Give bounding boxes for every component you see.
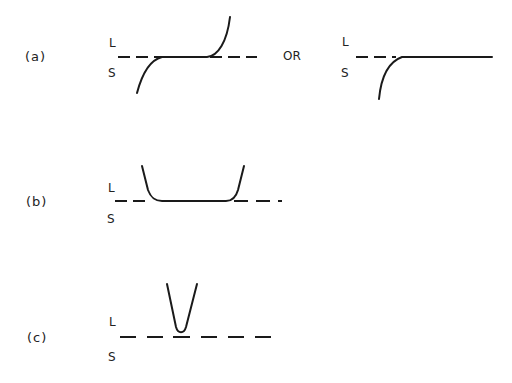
interface-curve-u [142,166,244,201]
phase-label-solid: S [108,351,116,364]
panel-a-variant-2 [356,57,492,99]
phase-label-liquid: L [109,316,116,329]
diagram-svg [0,0,512,383]
interface-curve [137,17,230,93]
phase-label-solid: S [107,213,115,226]
panel-label-a: (a) [25,50,46,63]
interface-curve [379,57,492,99]
phase-label-liquid: L [109,37,116,50]
connector-or: OR [283,50,301,63]
panel-c-diagram [120,284,273,337]
interface-curve-v [167,284,197,332]
panel-label-c: (c) [27,331,47,344]
phase-label-solid: S [341,67,349,80]
panel-b-diagram [115,166,282,201]
diagram-canvas: (a) L S OR L S (b) L S (c) L S [0,0,512,383]
panel-a-variant-1 [118,17,257,93]
phase-label-liquid: L [342,36,349,49]
phase-label-liquid: L [108,182,115,195]
phase-label-solid: S [108,67,116,80]
panel-label-b: (b) [26,195,47,208]
